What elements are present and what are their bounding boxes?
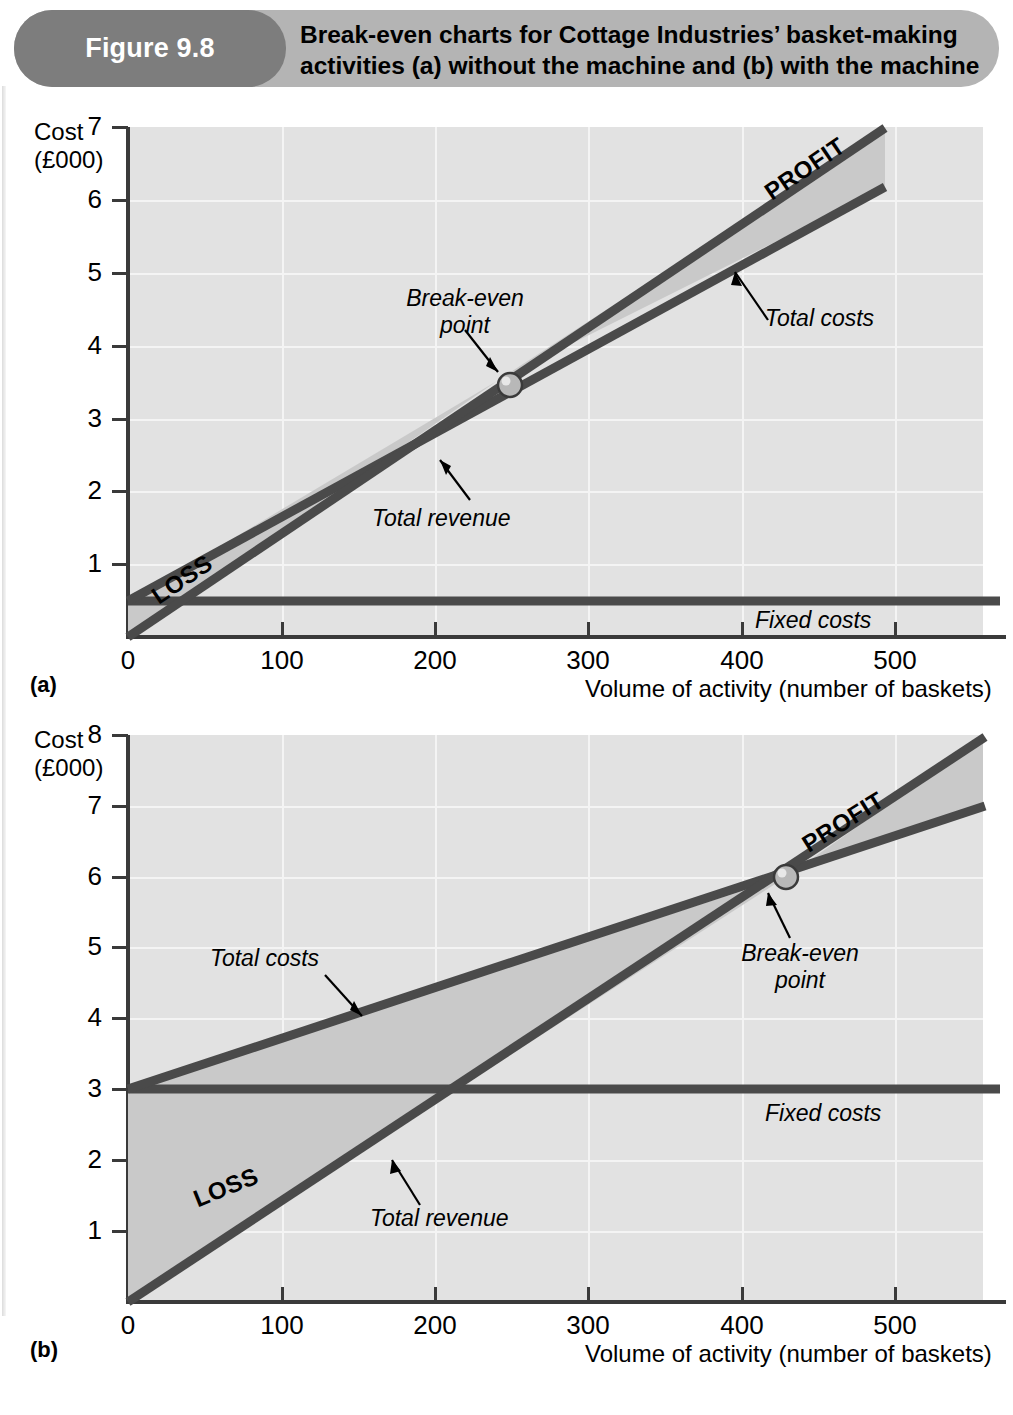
annotation-total-costs-b: Total costs: [210, 945, 319, 972]
chart-b: 8 7 6 5 4 3 2 1 0 100 200 300 400 500 Co…: [0, 0, 1013, 1415]
chart-b-lines: [0, 0, 1013, 1415]
annotation-fixed-costs-b: Fixed costs: [765, 1100, 881, 1127]
annotation-total-revenue-b: Total revenue: [370, 1205, 509, 1232]
annotation-break-even-b-line1: Break-even: [690, 940, 910, 967]
annotation-break-even-b-line2: point: [690, 967, 910, 994]
annotation-break-even-b: Break-even point: [690, 940, 910, 994]
